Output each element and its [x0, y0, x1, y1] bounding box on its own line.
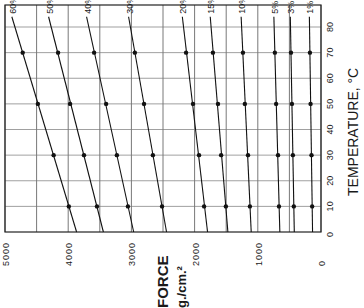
data-point-marker	[243, 102, 247, 106]
series-label: 1%	[305, 1, 315, 14]
series-1pct	[308, 17, 315, 232]
series-label: 30%	[125, 0, 135, 14]
series-line	[290, 17, 294, 232]
series-30pct	[129, 17, 167, 232]
series-label: 50%	[45, 0, 55, 14]
data-point-marker	[290, 102, 294, 106]
temperature-tick-label: 10	[325, 201, 335, 211]
grid-lines	[5, 5, 321, 232]
data-point-marker	[310, 204, 314, 208]
temperature-tick-label: 30	[325, 150, 335, 160]
series-label: 15%	[206, 0, 216, 14]
series-40pct	[87, 17, 134, 232]
data-point-marker	[126, 204, 130, 208]
data-point-marker	[276, 153, 280, 157]
data-point-marker	[133, 50, 137, 54]
series-line	[12, 17, 77, 232]
data-point-marker	[309, 153, 313, 157]
data-point-marker	[224, 204, 228, 208]
series-label: 5%	[270, 1, 280, 14]
data-point-marker	[51, 153, 55, 157]
series-line	[87, 17, 134, 232]
data-point-marker	[104, 102, 108, 106]
data-point-marker	[184, 50, 188, 54]
temperature-tick-label: 0	[325, 232, 335, 237]
force-tick-label: 1000	[254, 242, 264, 266]
temperature-tick-label: 60	[325, 73, 335, 83]
series-label: 20%	[178, 0, 188, 14]
force-axis-units: g./cm.²	[174, 265, 189, 308]
series-line	[129, 17, 167, 232]
series-label: 40%	[83, 0, 93, 14]
data-point-marker	[20, 50, 24, 54]
data-point-marker	[202, 204, 206, 208]
series-line	[274, 17, 280, 232]
series-10pct	[241, 17, 252, 232]
series-line	[241, 17, 251, 232]
data-point-marker	[211, 50, 215, 54]
temperature-tick-label: 50	[325, 99, 335, 109]
series-line	[49, 17, 104, 232]
data-point-marker	[197, 153, 201, 157]
data-point-marker	[95, 204, 99, 208]
temperature-tick-label: 40	[325, 124, 335, 134]
data-point-marker	[308, 50, 312, 54]
force-tick-label: 0	[317, 260, 327, 266]
series-3pct	[289, 17, 296, 232]
data-point-marker	[191, 102, 195, 106]
data-point-marker	[274, 102, 278, 106]
data-point-marker	[291, 153, 295, 157]
force-tick-label: 2000	[191, 242, 201, 266]
data-point-marker	[219, 153, 223, 157]
force-tick-label: 3000	[127, 242, 137, 266]
data-point-marker	[292, 204, 296, 208]
data-point-marker	[289, 50, 293, 54]
series-15pct	[210, 17, 228, 232]
force-tick-label: 4000	[64, 242, 74, 266]
data-point-marker	[246, 153, 250, 157]
data-point-marker	[68, 102, 72, 106]
series-line	[210, 17, 228, 232]
series-label: 10%	[237, 0, 247, 14]
force-axis-title: FORCE	[154, 256, 171, 308]
data-point-marker	[142, 102, 146, 106]
data-point-marker	[308, 102, 312, 106]
series-line	[309, 17, 312, 232]
series-60pct	[12, 17, 77, 232]
data-point-marker	[82, 153, 86, 157]
force-temperature-chart: 60%50%40%30%20%15%10%5%3%1% 010002000300…	[0, 0, 364, 308]
data-point-marker	[151, 153, 155, 157]
series-50pct	[49, 17, 104, 232]
temperature-axis-title: TEMPERATURE, °C	[345, 68, 361, 196]
data-point-marker	[241, 50, 245, 54]
data-point-marker	[273, 50, 277, 54]
data-point-marker	[216, 102, 220, 106]
temperature-tick-label: 80	[325, 22, 335, 32]
series-5pct	[273, 17, 282, 232]
data-point-marker	[92, 50, 96, 54]
data-point-marker	[67, 204, 71, 208]
force-tick-label: 5000	[1, 242, 11, 266]
data-point-marker	[160, 204, 164, 208]
series-label: 60%	[8, 0, 18, 14]
temperature-tick-label: 70	[325, 48, 335, 58]
series-labels: 60%50%40%30%20%15%10%5%3%1%	[8, 0, 316, 14]
temperature-tick-label: 20	[325, 176, 335, 186]
data-point-marker	[115, 153, 119, 157]
data-point-marker	[56, 50, 60, 54]
temperature-axis-ticks: 01020304050607080	[325, 22, 335, 237]
data-point-marker	[277, 204, 281, 208]
data-point-marker	[248, 204, 252, 208]
data-point-marker	[36, 102, 40, 106]
series-label: 3%	[286, 1, 296, 14]
